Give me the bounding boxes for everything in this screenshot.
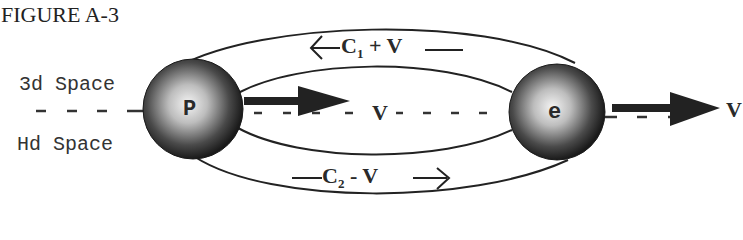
proton-velocity-arrow — [244, 86, 350, 116]
middle-velocity-label: V — [372, 100, 388, 126]
proton-label: P — [183, 97, 196, 122]
lower-flow-c: C — [322, 163, 338, 188]
upper-flow-rest: + V — [363, 33, 402, 58]
upper-flow-c: C — [341, 33, 357, 58]
electron-label: e — [548, 100, 561, 125]
lower-flow-rest: - V — [344, 163, 378, 188]
lower-flow-label: C2 - V — [322, 163, 378, 192]
upper-flow-label: C1 + V — [341, 33, 402, 62]
velocity-label: V — [726, 97, 742, 123]
electron-velocity-arrow — [612, 92, 720, 126]
